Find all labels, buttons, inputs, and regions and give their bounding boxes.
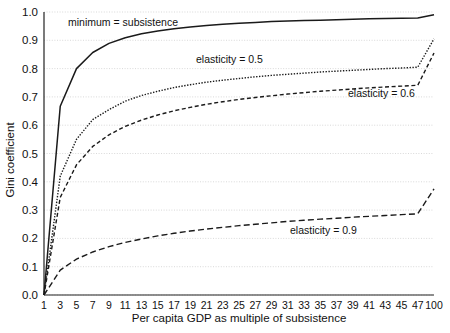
series-annotation-3: elasticity = 0.9 (290, 224, 357, 236)
x-tick-label: 1 (41, 299, 47, 311)
y-tick-label: 0.2 (22, 232, 38, 244)
x-tick-label: 3 (57, 299, 63, 311)
x-tick-label: 33 (298, 299, 310, 311)
x-tick-label: 100 (425, 299, 443, 311)
x-tick-label: 15 (152, 299, 164, 311)
x-tick-label: 43 (379, 299, 391, 311)
x-tick-label: 7 (90, 299, 96, 311)
y-axis-tick-labels: 0.00.10.20.30.40.50.60.70.80.91.0 (22, 6, 39, 301)
x-tick-label: 45 (396, 299, 408, 311)
x-tick-label: 25 (233, 299, 245, 311)
x-tick-label: 41 (363, 299, 375, 311)
x-tick-label: 35 (314, 299, 326, 311)
x-tick-label: 31 (282, 299, 294, 311)
series-annotation-0: minimum = subsistence (68, 16, 178, 28)
series-annotation-1: elasticity = 0.5 (196, 53, 263, 65)
x-tick-label: 27 (249, 299, 261, 311)
y-tick-label: 0.1 (22, 261, 38, 273)
y-tick-label: 0.9 (22, 34, 38, 46)
y-tick-label: 1.0 (22, 6, 38, 18)
x-axis-tick-labels: 1357911131517192123252729313335373941434… (41, 299, 443, 311)
gini-coefficient-chart: 0.00.10.20.30.40.50.60.70.80.91.0 135791… (0, 0, 450, 333)
x-tick-label: 21 (201, 299, 213, 311)
x-tick-label: 29 (266, 299, 278, 311)
x-tick-label: 17 (168, 299, 180, 311)
x-tick-label: 23 (217, 299, 229, 311)
y-tick-label: 0.5 (22, 148, 38, 160)
y-tick-label: 0.8 (22, 63, 38, 75)
y-tick-label: 0.4 (22, 176, 39, 188)
y-tick-label: 0.0 (22, 289, 38, 301)
x-tick-label: 5 (74, 299, 80, 311)
y-tick-label: 0.7 (22, 91, 38, 103)
x-tick-label: 37 (331, 299, 343, 311)
series-annotation-2: elasticity = 0.6 (348, 87, 415, 99)
x-tick-label: 47 (412, 299, 424, 311)
x-tick-label: 19 (184, 299, 196, 311)
x-tick-label: 13 (136, 299, 148, 311)
chart-canvas: 0.00.10.20.30.40.50.60.70.80.91.0 135791… (0, 0, 450, 333)
x-axis-title: Per capita GDP as multiple of subsistenc… (132, 312, 347, 324)
y-tick-label: 0.6 (22, 119, 38, 131)
x-tick-label: 39 (347, 299, 359, 311)
x-tick-label: 11 (120, 299, 131, 311)
y-axis-title: Gini coefficient (4, 122, 16, 198)
y-tick-label: 0.3 (22, 204, 38, 216)
x-tick-label: 9 (106, 299, 112, 311)
